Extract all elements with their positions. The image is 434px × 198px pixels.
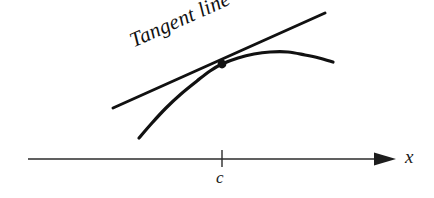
x-axis-arrowhead bbox=[374, 153, 396, 166]
tick-label-c: c bbox=[216, 168, 224, 188]
function-curve bbox=[139, 52, 333, 138]
tangent-line-figure: Tangent line x c bbox=[0, 0, 434, 198]
x-axis-label: x bbox=[405, 146, 413, 168]
tangency-point-marker bbox=[218, 60, 227, 69]
